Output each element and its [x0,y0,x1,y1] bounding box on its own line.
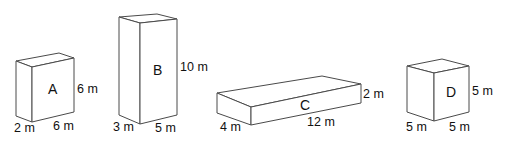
box-c-width: 12 m [307,115,335,129]
box-c: C 2 m 4 m 12 m [217,76,384,134]
box-a-depth: 2 m [14,121,35,135]
box-b-width: 5 m [155,121,176,135]
box-a-width: 6 m [53,119,74,133]
box-b-depth: 3 m [113,120,134,134]
box-c-depth: 4 m [220,120,241,134]
box-d-side-face [407,66,434,121]
box-b-side-face [119,17,140,124]
box-d-height: 5 m [472,84,493,98]
box-a-label: A [48,81,58,97]
box-d: D 5 m 5 m 5 m [406,59,493,134]
box-c-label: C [300,97,310,113]
box-c-height: 2 m [363,87,384,101]
box-a-side-face [16,61,32,122]
box-d-width: 5 m [449,120,470,134]
box-diagram: A 6 m 2 m 6 m B 10 m 3 m 5 m C 2 m 4 m 1… [0,0,505,156]
box-a-height: 6 m [77,82,98,96]
box-b: B 10 m 3 m 5 m [113,14,208,135]
box-d-label: D [446,84,456,100]
box-a: A 6 m 2 m 6 m [14,53,98,135]
box-d-depth: 5 m [406,120,427,134]
box-b-height: 10 m [180,60,208,74]
box-b-label: B [153,62,162,78]
